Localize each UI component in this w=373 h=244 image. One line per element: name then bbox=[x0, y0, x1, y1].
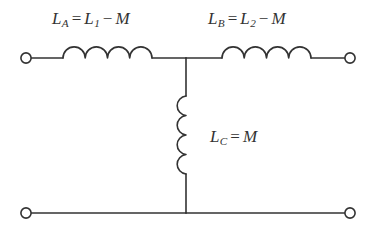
label-lc-subscript: C bbox=[220, 135, 227, 147]
label-inductor-lb: LB=L2−M bbox=[208, 10, 286, 27]
label-la-symbol: L bbox=[52, 9, 61, 28]
label-lb-operator: − bbox=[256, 9, 272, 28]
label-lb-subscript: B bbox=[218, 17, 225, 29]
label-la-operand: M bbox=[115, 9, 129, 28]
circuit-diagram-figure: LA=L1−M LB=L2−M LC=M bbox=[0, 0, 373, 244]
terminal-top-left bbox=[21, 53, 31, 63]
inductor-lb-coil bbox=[222, 47, 311, 58]
label-la-equals: = bbox=[69, 9, 85, 28]
label-lb-equals: = bbox=[225, 9, 241, 28]
label-inductor-la: LA=L1−M bbox=[52, 10, 130, 27]
label-la-rhs-subscript: 1 bbox=[94, 17, 100, 29]
terminal-top-right bbox=[345, 53, 355, 63]
label-lb-rhs-symbol: L bbox=[240, 9, 249, 28]
inductor-lc-coil bbox=[177, 96, 186, 174]
label-la-rhs-symbol: L bbox=[84, 9, 93, 28]
label-lc-symbol: L bbox=[210, 127, 219, 146]
circuit-schematic bbox=[0, 0, 373, 244]
terminal-bottom-left bbox=[21, 208, 31, 218]
label-lb-operand: M bbox=[271, 9, 285, 28]
label-inductor-lc: LC=M bbox=[210, 128, 257, 145]
label-la-subscript: A bbox=[62, 17, 69, 29]
label-lb-symbol: L bbox=[208, 9, 217, 28]
label-lc-operand: M bbox=[243, 127, 257, 146]
label-lb-rhs-subscript: 2 bbox=[250, 17, 256, 29]
terminal-bottom-right bbox=[345, 208, 355, 218]
inductor-la-coil bbox=[63, 47, 152, 58]
label-lc-equals: = bbox=[227, 127, 243, 146]
label-la-operator: − bbox=[100, 9, 116, 28]
